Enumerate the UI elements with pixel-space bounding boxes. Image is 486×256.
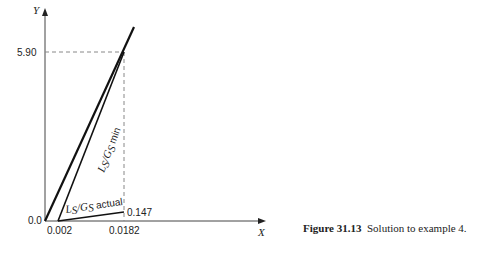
min-line-label: LS/GS min bbox=[94, 126, 124, 176]
figure-caption-text: Solution to example 4. bbox=[367, 222, 467, 234]
y-axis-arrow-icon bbox=[42, 8, 48, 16]
x-axis-label: X bbox=[257, 226, 266, 238]
equilibrium-line bbox=[45, 27, 134, 221]
y-axis-label: Y bbox=[33, 4, 41, 16]
x-tick-0002: 0.002 bbox=[47, 225, 72, 236]
chart: Y X 5.90 0.0 0.002 0.0182 0.147 LS/GS mi… bbox=[0, 0, 486, 256]
y-tick-590: 5.90 bbox=[17, 47, 37, 58]
figure-number: Figure 31.13 bbox=[303, 222, 361, 234]
value-0147: 0.147 bbox=[127, 207, 152, 218]
x-axis-arrow-icon bbox=[258, 218, 266, 224]
x-tick-00182: 0.0182 bbox=[109, 225, 140, 236]
figure-caption: Figure 31.13 Solution to example 4. bbox=[303, 222, 467, 234]
y-tick-0: 0.0 bbox=[28, 215, 42, 226]
